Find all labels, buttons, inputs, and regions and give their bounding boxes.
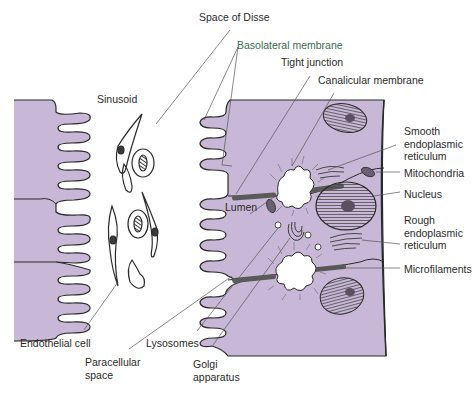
right-hepatocytes <box>200 100 386 356</box>
label-space-of-disse: Space of Disse <box>199 11 270 24</box>
label-basolateral-membrane: Basolateral membrane <box>237 39 343 52</box>
label-nucleus: Nucleus <box>404 188 442 201</box>
label-rough-er: Rough endoplasmic reticulum <box>404 214 463 252</box>
label-canalicular-membrane: Canalicular membrane <box>318 74 424 87</box>
label-lysosomes: Lysosomes <box>146 337 199 350</box>
nucleus-main <box>316 182 376 230</box>
label-golgi-apparatus: Golgi apparatus <box>193 358 240 383</box>
sinusoid-contents <box>108 114 158 288</box>
label-mitochondria: Mitochondria <box>404 167 464 180</box>
label-lumen: Lumen <box>225 201 257 214</box>
left-hepatocyte-upper <box>14 100 90 341</box>
label-smooth-er: Smooth endoplasmic reticulum <box>404 125 463 163</box>
label-paracellular-space: Paracellular space <box>85 356 140 381</box>
label-tight-junction: Tight junction <box>281 56 343 69</box>
label-microfilaments: Microfilaments <box>404 263 472 276</box>
label-sinusoid: Sinusoid <box>97 93 137 106</box>
label-endothelial-cell: Endothelial cell <box>20 337 91 350</box>
